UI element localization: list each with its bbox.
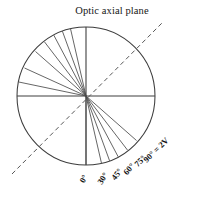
optic-axial-plane-figure: Optic axial plane 0° 30° 45° 60° 75° 90°… [0,0,199,200]
figure-title: Optic axial plane [75,5,149,16]
figure-background [0,0,199,200]
diagram-canvas: Optic axial plane 0° 30° 45° 60° 75° 90°… [0,0,199,200]
